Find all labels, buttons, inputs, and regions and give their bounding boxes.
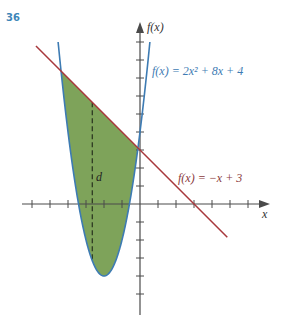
graph: f(x) x f(x) = 2x² + 8x + 4 f(x) = −x + 3… [0, 0, 284, 326]
x-axis-label: x [261, 207, 268, 221]
parabola-equation-label: f(x) = 2x² + 8x + 4 [152, 64, 243, 78]
y-axis-label: f(x) [147, 20, 164, 34]
y-axis-arrow-icon [136, 22, 144, 33]
distance-label-d: d [96, 170, 103, 184]
line-equation-label: f(x) = −x + 3 [178, 171, 242, 185]
